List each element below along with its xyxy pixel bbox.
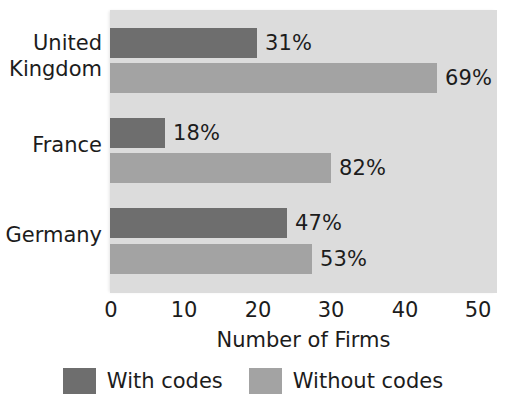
legend-swatch-icon-without-codes (249, 368, 282, 394)
x-axis-ticks: 0 10 20 30 40 50 (0, 296, 506, 326)
bar-uk-without-codes (110, 63, 437, 93)
bar-value-uk-with-codes: 31% (265, 28, 312, 58)
bar-value-germany-without-codes: 53% (320, 244, 367, 274)
x-tick-30: 30 (318, 296, 345, 324)
category-label-line-2: Kingdom (0, 56, 102, 82)
bar-germany-with-codes (110, 208, 287, 238)
bar-germany-without-codes (110, 244, 312, 274)
x-axis-title: Number of Firms (110, 326, 497, 354)
category-label-line-1: Germany (0, 222, 102, 248)
x-tick-0: 0 (104, 296, 117, 324)
category-label-united-kingdom: United Kingdom (0, 30, 102, 82)
bar-value-germany-with-codes: 47% (295, 208, 342, 238)
legend-item-without-codes: Without codes (249, 368, 443, 394)
x-tick-10: 10 (171, 296, 198, 324)
category-label-france: France (0, 132, 102, 158)
plot-area: 31% 69% 18% 82% 47% 53% (110, 10, 497, 293)
bar-france-with-codes (110, 118, 165, 148)
bar-uk-with-codes (110, 28, 257, 58)
bar-chart-figure: United Kingdom France Germany 31% 69% 18… (0, 0, 506, 405)
x-tick-20: 20 (245, 296, 272, 324)
legend-item-with-codes: With codes (63, 368, 223, 394)
chart-legend: With codes Without codes (0, 362, 506, 400)
bar-france-without-codes (110, 153, 331, 183)
legend-label-without-codes: Without codes (293, 368, 443, 394)
x-tick-40: 40 (392, 296, 419, 324)
category-label-line-1: United (0, 30, 102, 56)
bar-value-france-with-codes: 18% (173, 118, 220, 148)
legend-label-with-codes: With codes (107, 368, 223, 394)
x-tick-50: 50 (465, 296, 492, 324)
category-label-line-1: France (0, 132, 102, 158)
y-axis-category-labels: United Kingdom France Germany (0, 10, 102, 293)
legend-swatch-icon-with-codes (63, 368, 96, 394)
category-label-germany: Germany (0, 222, 102, 248)
bar-value-uk-without-codes: 69% (445, 63, 492, 93)
bar-value-france-without-codes: 82% (339, 153, 386, 183)
